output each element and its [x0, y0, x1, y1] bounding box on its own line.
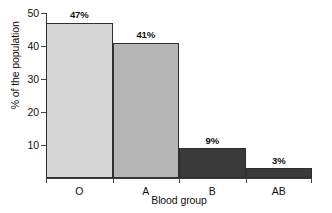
bar-value-label: 9% — [179, 136, 246, 146]
blood-group-bar-chart: % of the population 5040302010 47%41%9%3… — [0, 0, 332, 213]
bar[interactable] — [246, 168, 313, 178]
bar-group: 41% — [113, 13, 180, 178]
plot-area: 47%41%9%3% — [46, 13, 312, 178]
bar-group: 47% — [46, 13, 113, 178]
bar[interactable] — [46, 23, 113, 178]
y-axis-tick: 30 — [28, 73, 46, 85]
y-axis-ticks: 5040302010 — [0, 0, 46, 213]
y-axis-tick: 10 — [28, 139, 46, 151]
y-axis-tick-label: 40 — [28, 41, 39, 52]
y-axis-tick-label: 50 — [28, 8, 39, 19]
bar-value-label: 41% — [113, 30, 180, 40]
y-axis-tick: 40 — [28, 40, 46, 52]
x-axis-title: Blood group — [46, 195, 312, 206]
x-axis-tick-mark — [113, 178, 114, 183]
bar[interactable] — [113, 43, 180, 178]
y-axis-tick-label: 30 — [28, 74, 39, 85]
bar[interactable] — [179, 148, 246, 178]
y-axis-tick-label: 20 — [28, 107, 39, 118]
x-axis-tick-mark — [246, 178, 247, 183]
bar-group: 3% — [246, 13, 313, 178]
bar-group: 9% — [179, 13, 246, 178]
y-axis-tick-label: 10 — [28, 140, 39, 151]
y-axis-tick: 50 — [28, 7, 46, 19]
x-axis-tick-mark — [311, 178, 312, 183]
x-axis-tick-mark — [46, 178, 47, 183]
x-axis-tick-mark — [179, 178, 180, 183]
bar-value-label: 47% — [46, 10, 113, 20]
bar-value-label: 3% — [246, 156, 313, 166]
y-axis-tick: 20 — [28, 106, 46, 118]
